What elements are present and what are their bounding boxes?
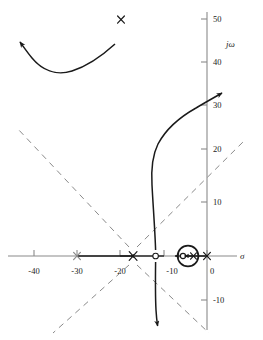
pole-markers-group — [74, 16, 211, 260]
x-tick-label--20: -20 — [114, 266, 125, 276]
y-axis-ticks — [201, 19, 207, 300]
root-locus-plot-canvas: -40 -30 -20 -10 0 50 40 30 20 10 -10 σ j… — [0, 0, 263, 340]
y-tick-label-30: 30 — [213, 100, 222, 110]
zero-marker--12 — [153, 253, 159, 259]
y-axis-tick-labels: 50 40 30 20 10 -10 — [213, 14, 224, 305]
root-locus-figure: -40 -30 -20 -10 0 50 40 30 20 10 -10 σ j… — [0, 0, 263, 340]
y-tick-label-10: 10 — [213, 197, 222, 207]
real-axis-label: σ — [240, 251, 245, 261]
upper-left-branch — [20, 42, 115, 73]
y-tick-label--10: -10 — [213, 295, 224, 305]
y-tick-label-40: 40 — [213, 57, 222, 67]
y-tick-label-50: 50 — [213, 14, 222, 24]
x-tick-label-0: 0 — [210, 266, 214, 276]
asymptotes-group — [17, 128, 245, 333]
upper-right-branch — [152, 93, 222, 250]
asymptote--135deg — [53, 265, 129, 333]
x-tick-label--40: -40 — [28, 266, 39, 276]
pole-marker-complex-upper — [118, 16, 125, 23]
asymptote-135deg — [17, 128, 129, 247]
lower-branch — [155, 262, 157, 326]
y-tick-label-20: 20 — [213, 144, 222, 154]
axes-group — [8, 12, 237, 330]
x-tick-label--10: -10 — [166, 266, 177, 276]
imaginary-axis-label: jω — [225, 39, 235, 49]
x-tick-label--30: -30 — [71, 266, 82, 276]
locus-branches-group — [20, 42, 222, 326]
x-axis-tick-labels: -40 -30 -20 -10 0 — [28, 266, 214, 276]
